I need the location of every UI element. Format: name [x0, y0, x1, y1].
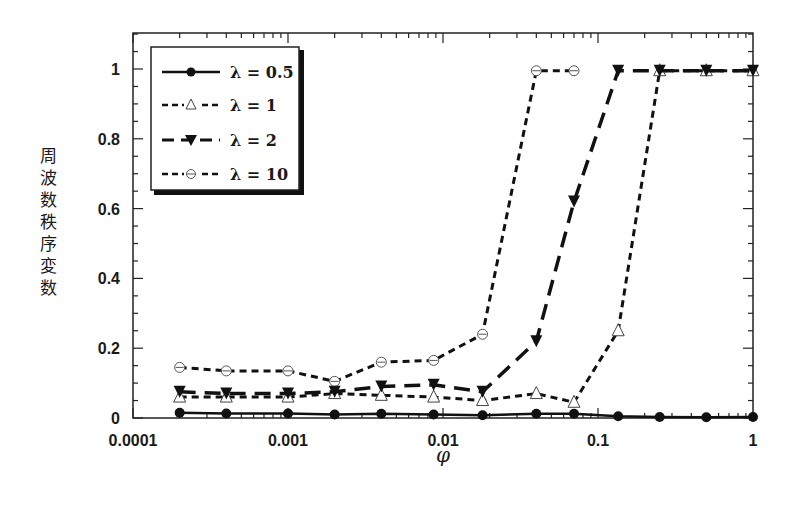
filled-circle-marker-icon	[187, 68, 196, 77]
filled-circle-marker-icon	[613, 411, 623, 421]
x-tick-label: 0.001	[268, 432, 308, 449]
y-tick-label: 0.4	[98, 270, 120, 287]
svg-text:λ = 1: λ = 1	[230, 96, 277, 115]
x-tick-label: 1	[749, 432, 758, 449]
svg-text:秩: 秩	[40, 212, 57, 232]
filled-circle-marker-icon	[701, 412, 711, 422]
svg-text:λ = 0.5: λ = 0.5	[230, 63, 294, 82]
series-0-5	[175, 408, 758, 423]
y-tick-label: 1	[111, 61, 120, 78]
filled-circle-marker-icon	[283, 408, 293, 418]
open-triangle-marker-icon	[612, 324, 624, 336]
x-tick-label: 0.0001	[109, 432, 158, 449]
open-triangle-marker-icon	[530, 387, 542, 399]
x-axis-title: φ	[436, 443, 450, 467]
filled-down-triangle-marker-icon	[568, 196, 580, 208]
filled-down-triangle-marker-icon	[530, 335, 542, 347]
svg-text:λ = 2: λ = 2	[230, 131, 277, 150]
filled-circle-marker-icon	[569, 409, 579, 419]
legend: λ = 0.5 λ = 1 λ = 2 λ = 10	[151, 47, 304, 195]
y-tick-label: 0	[111, 410, 120, 427]
filled-circle-marker-icon	[531, 409, 541, 419]
svg-text:数: 数	[40, 278, 57, 298]
svg-text:周: 周	[40, 146, 57, 166]
filled-circle-marker-icon	[429, 410, 439, 420]
chart-canvas: 0.00010.0010.010.1100.20.40.60.81 φ 周波数秩…	[0, 0, 797, 520]
filled-circle-marker-icon	[478, 410, 488, 420]
svg-text:波: 波	[40, 168, 57, 188]
filled-circle-marker-icon	[221, 408, 231, 418]
filled-circle-marker-icon	[655, 412, 665, 422]
filled-down-triangle-marker-icon	[477, 386, 489, 398]
y-tick-label: 0.2	[98, 340, 120, 357]
y-axis-title: 周波数秩序変数	[40, 146, 57, 298]
svg-text:変: 変	[40, 256, 57, 276]
svg-text:序: 序	[40, 234, 57, 254]
filled-circle-marker-icon	[748, 412, 758, 422]
filled-circle-marker-icon	[175, 408, 185, 418]
svg-text:λ = 10: λ = 10	[230, 165, 288, 184]
filled-circle-marker-icon	[330, 410, 340, 420]
filled-circle-marker-icon	[376, 409, 386, 419]
x-tick-label: 0.1	[587, 432, 609, 449]
y-tick-label: 0.6	[98, 201, 120, 218]
y-tick-label: 0.8	[98, 131, 120, 148]
svg-text:数: 数	[40, 190, 57, 210]
